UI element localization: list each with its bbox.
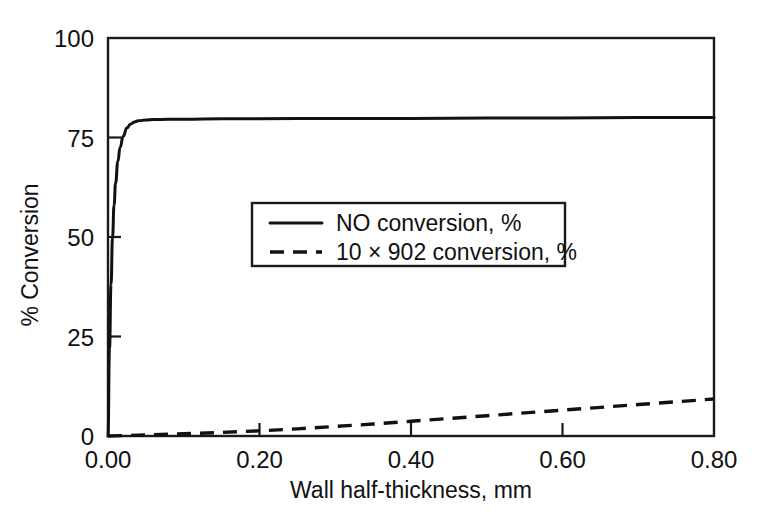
x-axis-title: Wall half-thickness, mm (290, 477, 532, 503)
chart-figure: 0255075100 0.000.200.400.600.80 Wall hal… (0, 0, 769, 522)
y-tick-label-75: 75 (67, 125, 94, 152)
x-tick-label-0.60: 0.60 (539, 446, 586, 473)
y-tick-label-50: 50 (67, 224, 94, 251)
legend-label-no-conversion: NO conversion, % (336, 210, 521, 236)
y-tick-label-25: 25 (67, 324, 94, 351)
legend-label-so2-conversion: 10 × 902 conversion, % (336, 239, 577, 265)
x-tick-label-0.00: 0.00 (85, 446, 132, 473)
data-series-group (108, 118, 714, 436)
y-tick-label-100: 100 (54, 25, 94, 52)
conversion-line-chart: 0255075100 0.000.200.400.600.80 Wall hal… (0, 0, 769, 522)
series-line-1 (108, 118, 714, 436)
y-axis-title: % Conversion (17, 183, 43, 326)
chart-legend: NO conversion, % 10 × 902 conversion, % (252, 203, 577, 266)
x-tick-label-0.40: 0.40 (388, 446, 435, 473)
x-tick-label-0.20: 0.20 (236, 446, 283, 473)
y-axis-tick-labels: 0255075100 (54, 25, 94, 450)
x-tick-label-0.80: 0.80 (691, 446, 738, 473)
x-axis-tick-labels: 0.000.200.400.600.80 (85, 446, 738, 473)
